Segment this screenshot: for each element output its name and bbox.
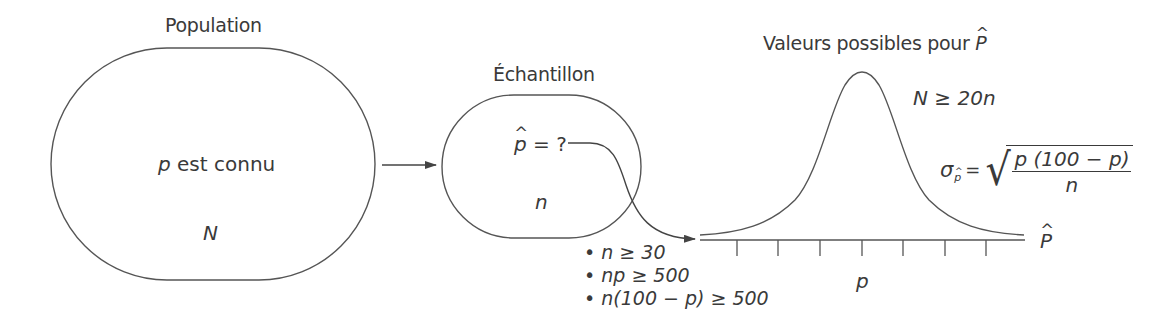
axis-center-label: p: [856, 271, 869, 291]
axis-ticks: [737, 240, 986, 256]
formula-denominator: n: [1066, 172, 1079, 196]
population-param-symbol: p: [158, 152, 171, 176]
sample-estimator-text: = ?: [527, 132, 567, 156]
population-title: Population: [165, 16, 262, 35]
square-root-icon: √: [986, 148, 1011, 192]
distribution-title-symbol: P: [975, 34, 986, 53]
sample-oval: [442, 95, 641, 238]
sample-title: Échantillon: [493, 65, 595, 84]
formula-numerator: p (100 − p): [1012, 146, 1131, 172]
sample-size-label: n: [535, 192, 548, 212]
population-param-text: est connu: [171, 152, 276, 176]
population-size-condition: N ≥ 20n: [913, 88, 996, 108]
sample-estimator-label: p = ?: [514, 134, 567, 154]
sigma-subscript: p: [954, 171, 961, 184]
distribution-title-text: Valeurs possibles pour: [763, 32, 975, 54]
population-size-label: N: [203, 223, 218, 243]
formula-fraction: p (100 − p) n: [1006, 145, 1133, 196]
condition-item: • n(100 − p) ≥ 500: [584, 289, 769, 312]
sample-to-distribution-arrow: [568, 143, 695, 239]
sigma-symbol: σ: [940, 158, 953, 182]
condition-item: • n ≥ 30: [584, 243, 769, 266]
distribution-title: Valeurs possibles pour P: [763, 34, 987, 53]
sample-estimator-symbol: p: [514, 134, 527, 154]
condition-item: • np ≥ 500: [584, 266, 769, 289]
equals-sign: =: [965, 159, 980, 180]
standard-error-formula: σ p = √ p (100 − p) n: [940, 143, 1133, 196]
population-parameter-label: p est connu: [158, 154, 275, 174]
conditions-list: • n ≥ 30 • np ≥ 500 • n(100 − p) ≥ 500: [584, 243, 769, 312]
axis-variable-label: P: [1040, 231, 1052, 251]
